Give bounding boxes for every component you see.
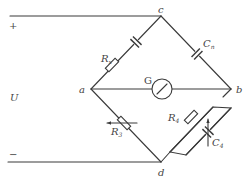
node-c-label: c bbox=[158, 4, 164, 15]
branch-d-b bbox=[161, 89, 231, 162]
branch-c-b bbox=[161, 16, 231, 89]
rx-label: Rx bbox=[100, 53, 113, 65]
cn-label: Cn bbox=[203, 38, 215, 50]
branch-a-b bbox=[91, 79, 231, 99]
c4-label: C4 bbox=[212, 137, 224, 149]
branch-a-d bbox=[91, 89, 161, 162]
r4-label: R4 bbox=[167, 112, 180, 124]
schering-bridge-diagram: + − U a b c d Rx Cn G R3 R4 C4 bbox=[0, 0, 250, 193]
galvanometer-label: G bbox=[144, 75, 152, 86]
voltage-label: U bbox=[10, 92, 19, 103]
node-b-label: b bbox=[236, 84, 242, 95]
node-a-label: a bbox=[79, 84, 85, 95]
plus-terminal-label: + bbox=[9, 20, 17, 31]
galvanometer-icon bbox=[152, 79, 172, 99]
r3-label: R3 bbox=[110, 126, 123, 138]
resistor-r4-icon bbox=[184, 110, 197, 124]
minus-terminal-label: − bbox=[9, 149, 17, 160]
node-d-label: d bbox=[158, 167, 164, 178]
